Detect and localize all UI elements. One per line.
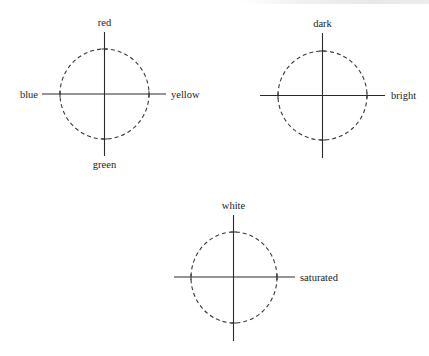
label-saturated: saturated	[300, 272, 339, 283]
label-red: red	[98, 17, 112, 28]
hue-diagram: red green blue yellow	[20, 17, 200, 170]
brightness-diagram: dark bright	[260, 18, 416, 158]
label-green: green	[93, 159, 117, 170]
opponent-color-diagrams: red green blue yellow dark bright white …	[0, 0, 429, 356]
saturation-diagram: white saturated	[174, 200, 339, 341]
label-white: white	[222, 200, 246, 211]
label-bright: bright	[391, 90, 416, 101]
label-dark: dark	[313, 18, 332, 29]
label-blue: blue	[20, 89, 38, 100]
label-yellow: yellow	[171, 89, 200, 100]
